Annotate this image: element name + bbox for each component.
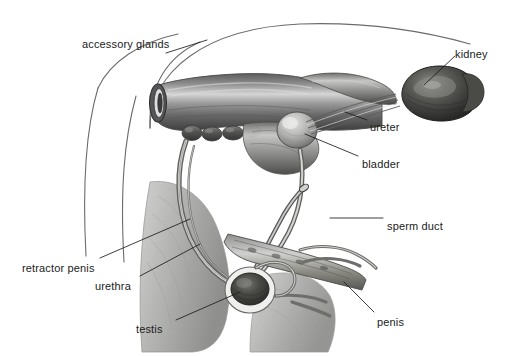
anatomical-figure: accessory glandskidneyureterbladdersperm… <box>0 0 510 356</box>
label-retractor-penis: retractor penis <box>22 262 95 274</box>
label-penis: penis <box>377 316 404 328</box>
label-bladder: bladder <box>362 158 400 170</box>
scrotum <box>225 267 275 313</box>
accessory-glands-leader <box>166 40 207 53</box>
bladder-organ <box>277 112 317 148</box>
label-sperm-duct: sperm duct <box>387 220 443 232</box>
label-testis: testis <box>136 323 163 335</box>
anatomy-illustration <box>0 0 510 356</box>
kidney-organ <box>402 66 484 121</box>
label-kidney: kidney <box>455 48 488 60</box>
testis-organ <box>231 273 269 305</box>
label-accessory-glands: accessory glands <box>82 38 169 50</box>
label-ureter: ureter <box>370 121 400 133</box>
label-urethra: urethra <box>95 280 131 292</box>
